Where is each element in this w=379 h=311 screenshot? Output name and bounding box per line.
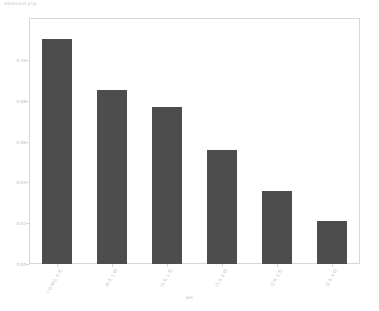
bar bbox=[317, 221, 347, 264]
x-axis-tick-label: (1.0, 1.5] bbox=[159, 268, 173, 288]
x-axis-title: bin bbox=[0, 295, 379, 300]
bar bbox=[42, 39, 72, 264]
y-axis-tick-label: 0.00 bbox=[1, 262, 29, 267]
x-axis-tick-label: (2.0, 2.5] bbox=[269, 268, 283, 288]
y-axis-tick-mark bbox=[26, 264, 29, 265]
figure-title: dasboard.png bbox=[4, 1, 37, 7]
y-axis-tick-label: 0.02 bbox=[1, 221, 29, 226]
x-axis-tick-mark bbox=[167, 264, 168, 267]
y-axis-tick-label: 0.08 bbox=[1, 98, 29, 103]
x-axis-tick-mark bbox=[57, 264, 58, 267]
x-axis-tick-label: (1.5, 2.0] bbox=[214, 268, 228, 288]
y-axis-tick-label: 0.04 bbox=[1, 180, 29, 185]
x-axis-tick-label: (2.5, 3.0] bbox=[324, 268, 338, 288]
y-axis-tick-label: 0.10 bbox=[1, 57, 29, 62]
bar-series bbox=[30, 19, 359, 264]
x-axis-tick-label: (0.5, 1.0] bbox=[104, 268, 118, 288]
x-axis-tick-mark bbox=[112, 264, 113, 267]
y-axis-tick-label: 0.06 bbox=[1, 139, 29, 144]
figure-canvas: dasboard.png 0.000.020.040.060.080.10(-0… bbox=[0, 0, 379, 311]
bar bbox=[207, 150, 237, 264]
bar bbox=[152, 107, 182, 264]
x-axis-tick-mark bbox=[332, 264, 333, 267]
x-axis-tick-mark bbox=[277, 264, 278, 267]
x-axis-tick-label: (-0.001, 0.5] bbox=[46, 268, 64, 294]
x-axis-tick-mark bbox=[222, 264, 223, 267]
bar bbox=[262, 191, 292, 265]
bar bbox=[97, 90, 127, 264]
